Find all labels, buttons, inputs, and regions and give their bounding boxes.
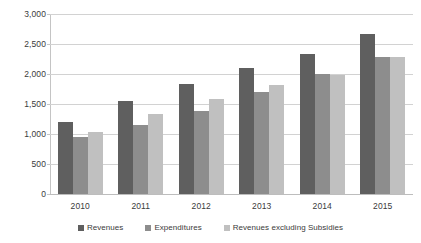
legend-label: Revenues excluding Subsidies [233, 224, 343, 232]
y-axis: 05001,0001,5002,0002,5003,000 [0, 0, 46, 243]
x-tick-label: 2014 [292, 198, 353, 214]
bar [179, 84, 194, 194]
legend-swatch-icon [224, 225, 230, 231]
bar-group [292, 14, 353, 194]
x-tick-label: 2010 [50, 198, 111, 214]
bar-group [171, 14, 232, 194]
y-tick-label: 1,000 [2, 130, 46, 139]
bar [73, 137, 88, 194]
bar [239, 68, 254, 194]
bar [194, 111, 209, 194]
legend-swatch-icon [145, 225, 151, 231]
y-tick-label: 2,500 [2, 40, 46, 49]
bar [300, 54, 315, 194]
bar [315, 74, 330, 194]
bar [254, 92, 269, 194]
x-axis-labels: 201020112012201320142015 [50, 198, 413, 214]
bar [269, 85, 284, 194]
bar [133, 125, 148, 194]
bar-chart: 05001,0001,5002,0002,5003,000 2010201120… [0, 0, 421, 243]
y-tick-label: 500 [2, 160, 46, 169]
y-tick-label: 0 [2, 190, 46, 199]
x-tick-label: 2015 [353, 198, 414, 214]
bar [88, 132, 103, 194]
legend-item[interactable]: Revenues excluding Subsidies [224, 224, 343, 232]
bar-group [353, 14, 414, 194]
legend-label: Revenues [87, 224, 123, 232]
bar [375, 57, 390, 194]
legend-item[interactable]: Expenditures [145, 224, 201, 232]
bar [118, 101, 133, 194]
bar-groups [50, 14, 413, 194]
x-tick-label: 2013 [232, 198, 293, 214]
x-tick-label: 2012 [171, 198, 232, 214]
y-tick-label: 3,000 [2, 10, 46, 19]
legend-item[interactable]: Revenues [78, 224, 123, 232]
x-tick-label: 2011 [111, 198, 172, 214]
bar [209, 99, 224, 194]
chart-legend: RevenuesExpendituresRevenues excluding S… [0, 221, 421, 235]
plot-area [50, 14, 413, 194]
gridline [50, 194, 413, 195]
legend-label: Expenditures [154, 224, 201, 232]
bar [330, 75, 345, 194]
bar-group [111, 14, 172, 194]
y-tick-label: 2,000 [2, 70, 46, 79]
bar [360, 34, 375, 194]
legend-swatch-icon [78, 225, 84, 231]
bar-group [232, 14, 293, 194]
y-tick-label: 1,500 [2, 100, 46, 109]
bar [390, 57, 405, 194]
bar-group [50, 14, 111, 194]
bar [58, 122, 73, 194]
bar [148, 114, 163, 194]
